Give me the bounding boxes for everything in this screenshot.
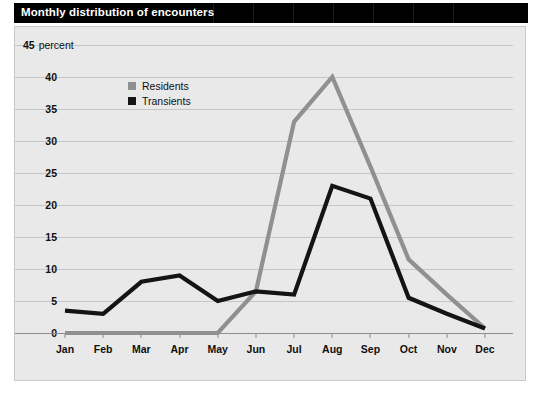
x-axis-tick-label: Aug [322,343,342,355]
gray-square-icon [128,82,136,90]
legend-item-label: Residents [142,80,189,92]
x-axis-tick-label: Nov [437,343,457,355]
y-axis-tick-label: 25 [45,167,57,179]
y-axis-tick-label: 30 [45,135,57,147]
legend-item-residents: Residents [128,79,191,92]
x-axis-tick-label: Sep [361,343,380,355]
title-bar-divider [373,3,374,23]
legend-item-transients: Transients [128,94,191,107]
chart-panel: 051015202530354045percent JanFebMarAprMa… [14,26,526,381]
y-axis-tick-label: 5 [51,295,57,307]
legend-item-label: Transients [142,95,191,107]
y-axis-tick-label: 15 [45,231,57,243]
title-bar-divider [413,3,414,23]
title-bar-divider [293,3,294,23]
x-axis-tick-label: Jan [56,343,74,355]
x-axis-tick-label: Jul [286,343,301,355]
x-axis-tick-label: Jun [247,343,266,355]
page-title: Monthly distribution of encounters [21,6,214,18]
y-axis-tick-label: 20 [45,199,57,211]
x-axis-tick-label: May [208,343,228,355]
x-axis-tick-label: Mar [132,343,151,355]
x-axis-tick-label: Feb [94,343,113,355]
y-axis-tick-label: 40 [45,71,57,83]
title-bar-divider [333,3,334,23]
chart-legend: Residents Transients [128,79,191,109]
x-axis-tick-label: Dec [475,343,494,355]
y-axis-tick-label: 35 [45,103,57,115]
x-axis-tick-label: Oct [400,343,418,355]
title-bar-divider [253,3,254,23]
black-square-icon [128,97,136,105]
chart-title-bar: Monthly distribution of encounters [14,3,528,23]
y-axis-tick-label: 10 [45,263,57,275]
x-axis-tick-label: Apr [170,343,188,355]
title-bar-divider [453,3,454,23]
